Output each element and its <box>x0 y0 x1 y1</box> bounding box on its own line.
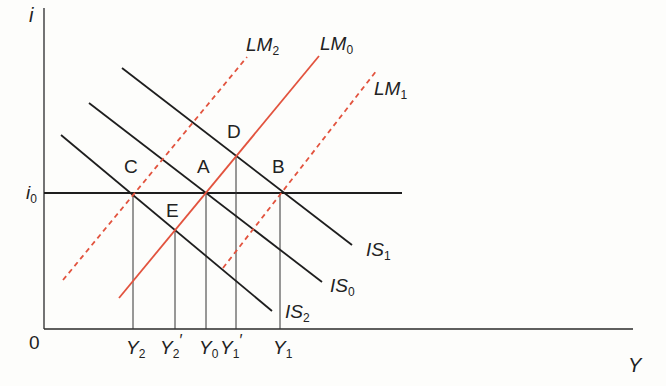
y-axis-label: i <box>29 4 34 26</box>
tick-y1-prime: Y1′ <box>220 332 242 361</box>
origin-label: 0 <box>29 332 40 353</box>
point-d-label: D <box>227 121 241 142</box>
point-e-label: E <box>166 200 179 221</box>
tick-y2-prime: Y2′ <box>160 332 182 361</box>
is-lm-diagram: i Y 0 i0 LM2 LM0 LM1 IS1 IS0 IS2 C A B D… <box>0 0 666 386</box>
point-c-label: C <box>124 156 138 177</box>
x-axis-label: Y <box>628 354 643 376</box>
point-b-label: B <box>272 156 285 177</box>
point-a-label: A <box>197 156 210 177</box>
